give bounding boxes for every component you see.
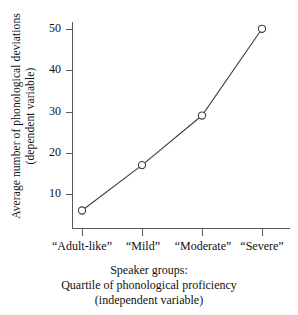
y-axis-title-line-1: Average number of phonological deviation… <box>9 13 23 219</box>
data-point-marker-mild <box>138 161 145 168</box>
data-point-marker-severe <box>258 25 265 32</box>
data-point-marker-adult-like <box>78 207 85 214</box>
data-series-layer <box>46 12 298 244</box>
caption-line-1: Speaker groups: <box>0 263 298 278</box>
x-axis-caption: Speaker groups: Quartile of phonological… <box>0 263 298 308</box>
y-axis-title-line-2: (dependent variable) <box>23 13 37 219</box>
caption-line-3: (independent variable) <box>0 293 298 308</box>
y-axis-title-text: Average number of phonological deviation… <box>9 13 37 219</box>
data-point-marker-moderate <box>198 112 205 119</box>
y-axis-title: Average number of phonological deviation… <box>0 0 46 232</box>
data-line-phonological-deviations <box>82 29 262 211</box>
caption-line-2: Quartile of phonological proficiency <box>0 278 298 293</box>
data-markers-group <box>78 25 265 214</box>
plot-area: 50 40 30 20 10 “Adult-like” “Mild” “Mode… <box>46 12 298 244</box>
figure-container: Average number of phonological deviation… <box>0 0 298 315</box>
